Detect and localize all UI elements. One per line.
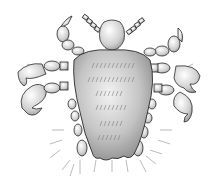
crab-louse-illustration — [0, 0, 222, 184]
head — [100, 20, 125, 50]
louse-drawing — [0, 0, 222, 184]
